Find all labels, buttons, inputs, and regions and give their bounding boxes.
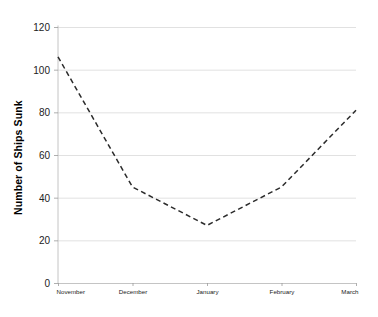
line-chart: 020406080100120 NovemberDecemberJanuaryF… [0, 0, 378, 317]
x-tick-label-february: February [270, 288, 296, 295]
y-tick-label-100: 100 [33, 65, 50, 76]
x-tick-label-december: December [119, 288, 148, 295]
chart-background [0, 0, 378, 317]
x-tick-label-march: March [341, 288, 359, 295]
y-tick-label-40: 40 [39, 193, 51, 204]
y-tick-label-0: 0 [44, 278, 50, 289]
y-tick-label-20: 20 [39, 235, 51, 246]
y-axis-title: Number of Ships Sunk [12, 100, 24, 215]
chart-container: 020406080100120 NovemberDecemberJanuaryF… [0, 0, 378, 317]
y-tick-label-80: 80 [39, 107, 51, 118]
x-tick-label-january: January [196, 288, 219, 295]
y-tick-label-120: 120 [33, 22, 50, 33]
y-tick-label-60: 60 [39, 150, 51, 161]
x-tick-label-november: November [57, 288, 86, 295]
